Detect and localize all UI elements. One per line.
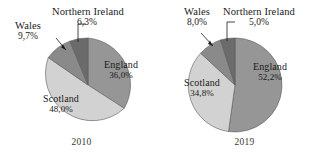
year-label-2010: 2010 bbox=[0, 137, 163, 147]
label-scotland-2019: Scotland 34,8% bbox=[171, 78, 233, 99]
pie-panel-2019: Wales 8,0% Northern Ireland 5,0% England… bbox=[163, 0, 326, 160]
label-scotland-pct: 48,0% bbox=[30, 105, 92, 115]
label-northern-ireland-2019: Northern Ireland 5,0% bbox=[223, 6, 325, 28]
label-wales-name: Wales bbox=[2, 20, 54, 31]
pie-slice-england bbox=[229, 38, 282, 132]
year-label-2019: 2019 bbox=[163, 137, 326, 147]
label-northern-ireland-2010: Northern Ireland 6,3% bbox=[52, 6, 160, 28]
label-northern-ireland-name: Northern Ireland bbox=[52, 6, 160, 17]
pie-chart-figure: Wales 9,7% Northern Ireland 6,3% England… bbox=[0, 0, 326, 160]
label-wales-2019: Wales 8,0% bbox=[173, 6, 221, 28]
label-england-2019: England 52,2% bbox=[241, 62, 299, 83]
label-scotland-pct: 34,8% bbox=[171, 89, 233, 99]
label-wales-2010: Wales 9,7% bbox=[2, 20, 54, 42]
label-northern-ireland-pct: 5,0% bbox=[223, 17, 325, 27]
label-northern-ireland-pct: 6,3% bbox=[52, 17, 160, 27]
label-england-pct: 52,2% bbox=[241, 73, 299, 83]
pie-panel-2010: Wales 9,7% Northern Ireland 6,3% England… bbox=[0, 0, 163, 160]
label-wales-pct: 9,7% bbox=[2, 31, 54, 41]
label-wales-name: Wales bbox=[173, 6, 221, 17]
label-england-2010: England 36,0% bbox=[92, 60, 150, 81]
label-northern-ireland-name: Northern Ireland bbox=[223, 6, 325, 17]
label-england-pct: 36,0% bbox=[92, 71, 150, 81]
label-scotland-2010: Scotland 48,0% bbox=[30, 94, 92, 115]
label-wales-pct: 8,0% bbox=[173, 17, 221, 27]
